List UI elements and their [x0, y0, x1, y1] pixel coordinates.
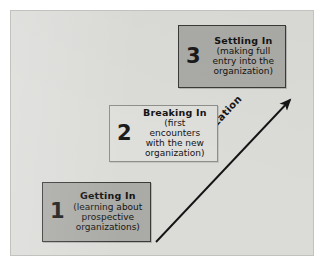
stage-desc-line: organization) [207, 66, 280, 76]
stage-desc-line: organization) [138, 148, 212, 158]
stage-desc-line: (first encounters [138, 118, 212, 138]
stage-box-breaking-in: 2 Breaking In (first encounters with the… [109, 105, 218, 162]
stage-text-2: Breaking In (first encounters with the n… [138, 108, 212, 159]
stage-desc-2: (first encounters with the new organizat… [138, 118, 212, 158]
diagram-canvas: Socialization 1 Getting In (learning abo… [10, 10, 314, 256]
stage-number-2: 2 [116, 123, 138, 144]
stage-desc-line: (learning about [71, 202, 145, 212]
stage-desc-line: prospective [71, 212, 145, 222]
stage-text-3: Settling In (making full entry into the … [207, 36, 280, 77]
stage-box-settling-in: 3 Settling In (making full entry into th… [178, 25, 286, 88]
stage-title-1: Getting In [71, 191, 145, 202]
stage-title-2: Breaking In [138, 108, 212, 119]
stage-title-3: Settling In [207, 36, 280, 47]
stage-box-getting-in: 1 Getting In (learning about prospective… [42, 182, 151, 242]
stage-number-1: 1 [49, 201, 71, 222]
stage-desc-3: (making full entry into the organization… [207, 46, 280, 76]
stage-number-3: 3 [185, 46, 207, 67]
stage-desc-1: (learning about prospective organization… [71, 202, 145, 232]
stage-text-1: Getting In (learning about prospective o… [71, 191, 145, 232]
stage-desc-line: with the new [138, 138, 212, 148]
stage-desc-line: entry into the [207, 56, 280, 66]
figure-root: Socialization 1 Getting In (learning abo… [0, 0, 328, 268]
stage-desc-line: organizations) [71, 222, 145, 232]
stage-desc-line: (making full [207, 46, 280, 56]
